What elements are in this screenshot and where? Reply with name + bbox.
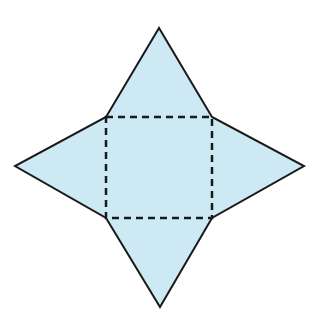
pyramid-net-diagram [0, 0, 322, 335]
net-outline [15, 28, 304, 307]
